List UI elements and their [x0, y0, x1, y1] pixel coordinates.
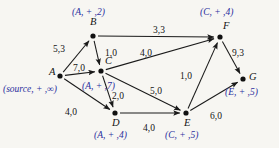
edge-label-a-b: 5,3 — [53, 45, 65, 55]
node-annotation-g: (E, + ,5) — [225, 88, 258, 98]
edge-label-b-f: 3,3 — [153, 26, 165, 36]
node-c — [98, 68, 103, 73]
network-flow-diagram: 5,37,04,01,03,34,02,05,04,01,06,09,3A(so… — [0, 0, 279, 148]
edge-c-f — [106, 39, 214, 70]
node-b — [90, 33, 95, 38]
graph-canvas — [0, 0, 279, 148]
node-name-c: C — [105, 56, 112, 67]
edge-label-f-g: 9,3 — [232, 49, 244, 59]
edge-b-f — [98, 36, 214, 37]
node-name-g: G — [249, 72, 257, 83]
node-name-a: A — [49, 67, 55, 78]
edge-label-a-c: 7,0 — [73, 64, 85, 74]
edge-label-c-f: 4,0 — [140, 49, 152, 59]
node-e — [183, 110, 188, 115]
node-annotation-d: (A, + ,4) — [94, 131, 127, 141]
node-f — [217, 34, 222, 39]
node-annotation-e: (C, + ,5) — [165, 131, 198, 141]
node-annotation-b: (A, + ,2) — [72, 8, 105, 18]
node-name-e: E — [184, 118, 190, 129]
node-annotation-a: (source, + ,∞) — [3, 85, 57, 95]
edge-label-e-f: 1,0 — [180, 72, 192, 82]
edge-label-c-d: 2,0 — [112, 92, 124, 102]
edge-label-d-e: 4,0 — [143, 124, 155, 134]
node-d — [112, 110, 117, 115]
node-name-f: F — [223, 21, 229, 32]
edge-label-a-d: 4,0 — [65, 108, 77, 118]
edge-label-e-g: 6,0 — [210, 112, 222, 122]
edge-e-f — [188, 43, 217, 109]
node-name-d: D — [112, 118, 120, 129]
edge-label-c-e: 5,0 — [150, 87, 162, 97]
node-name-b: B — [90, 17, 96, 28]
node-annotation-f: (C, + ,4) — [200, 8, 233, 18]
node-g — [240, 76, 245, 81]
node-annotation-c: (A, + ,7) — [82, 82, 115, 92]
node-a — [57, 73, 62, 78]
edge-b-c — [94, 41, 100, 65]
